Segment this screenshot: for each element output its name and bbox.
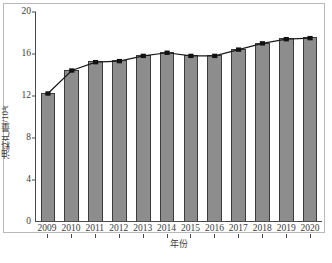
x-axis-tick-label: 2020 — [298, 224, 322, 234]
bar-slot — [227, 12, 251, 221]
bar — [255, 43, 270, 222]
bar-slot — [298, 12, 322, 221]
bar — [112, 60, 127, 221]
x-axis-tick-label: 2013 — [131, 224, 155, 234]
bar-slot — [274, 12, 298, 221]
x-axis-tick-label: 2011 — [83, 224, 107, 234]
bar-slot — [250, 12, 274, 221]
x-axis-tick-mark — [214, 234, 215, 238]
y-axis-title: 油料产量/10⁴t — [1, 105, 10, 158]
bar — [303, 37, 318, 221]
bar-slot — [179, 12, 203, 221]
bar-slot — [36, 12, 60, 221]
plot-area: 048121620 — [35, 12, 322, 222]
x-axis-tick-mark — [238, 234, 239, 238]
x-axis-tick-mark — [286, 234, 287, 238]
x-axis-title: 年份 — [35, 240, 322, 249]
x-axis-tick-label: 2018 — [250, 224, 274, 234]
x-axis-tick-mark — [95, 234, 96, 238]
x-axis-tick-mark — [167, 234, 168, 238]
x-axis-tick-label: 2017 — [226, 224, 250, 234]
x-axis-tick-mark — [143, 234, 144, 238]
y-axis-title-label: 油料产量/10⁴t — [1, 105, 10, 158]
x-axis-tick-label: 2016 — [202, 224, 226, 234]
bar — [64, 70, 79, 221]
chart-figure: 油料产量/10⁴t 048121620 20092010201120122013… — [0, 0, 332, 263]
bar — [41, 93, 56, 221]
bar — [88, 61, 103, 221]
bar-slot — [131, 12, 155, 221]
bar-series — [36, 12, 322, 221]
bar-slot — [60, 12, 84, 221]
x-axis-tick-mark — [310, 234, 311, 238]
x-axis-tick-label: 2015 — [179, 224, 203, 234]
x-axis-tick-label: 2014 — [155, 224, 179, 234]
x-axis-tick-mark — [71, 234, 72, 238]
bar — [184, 55, 199, 221]
bar-slot — [107, 12, 131, 221]
x-axis-tick-label: 2009 — [35, 224, 59, 234]
bar — [279, 38, 294, 221]
x-axis-tick-label: 2019 — [274, 224, 298, 234]
x-axis-tick-mark — [47, 234, 48, 238]
x-axis-tick-mark — [262, 234, 263, 238]
bar-slot — [155, 12, 179, 221]
bar — [207, 55, 222, 221]
x-axis-tick-mark — [119, 234, 120, 238]
x-axis-tick-label: 2010 — [59, 224, 83, 234]
x-axis-tick-label: 2012 — [107, 224, 131, 234]
bar — [231, 49, 246, 221]
bar-slot — [203, 12, 227, 221]
bar-slot — [84, 12, 108, 221]
x-axis-ticks: 2009201020112012201320142015201620172018… — [35, 224, 322, 234]
x-axis-tick-mark — [190, 234, 191, 238]
x-axis-title-label: 年份 — [170, 239, 188, 249]
bar — [136, 55, 151, 221]
bar — [160, 52, 175, 221]
